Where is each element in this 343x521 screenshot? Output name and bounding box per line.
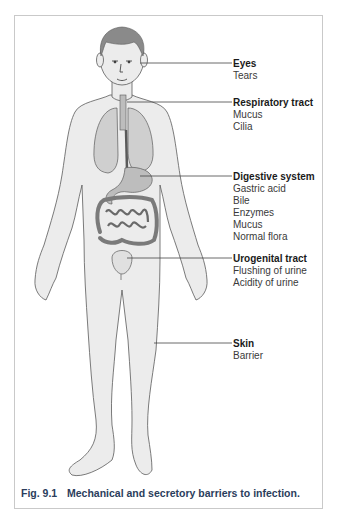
label-item: Flushing of urine [233, 265, 307, 277]
label-title: Skin [233, 338, 263, 350]
label-title: Respiratory tract [233, 97, 313, 109]
label-title: Eyes [233, 58, 257, 70]
label-title: Digestive system [233, 171, 315, 183]
label-item: Acidity of urine [233, 277, 307, 289]
figure-caption: Fig. 9.1Mechanical and secretory barrier… [21, 487, 300, 499]
label-respiratory-tract: Respiratory tract Mucus Cilia [233, 97, 313, 133]
caption-text: Mechanical and secretory barriers to inf… [67, 487, 300, 499]
label-urogenital-tract: Urogenital tract Flushing of urine Acidi… [233, 253, 307, 289]
esophagus [126, 130, 127, 170]
label-item: Enzymes [233, 207, 315, 219]
label-item: Barrier [233, 350, 263, 362]
label-eyes: Eyes Tears [233, 58, 257, 82]
label-item: Mucus [233, 109, 313, 121]
label-item: Mucus [233, 219, 315, 231]
caption-number: Fig. 9.1 [21, 487, 67, 499]
label-skin: Skin Barrier [233, 338, 263, 362]
label-item: Bile [233, 195, 315, 207]
label-item: Tears [233, 70, 257, 82]
label-title: Urogenital tract [233, 253, 307, 265]
trachea [120, 95, 126, 130]
label-digestive-system: Digestive system Gastric acid Bile Enzym… [233, 171, 315, 243]
label-item: Normal flora [233, 231, 315, 243]
label-item: Gastric acid [233, 183, 315, 195]
label-item: Cilia [233, 121, 313, 133]
